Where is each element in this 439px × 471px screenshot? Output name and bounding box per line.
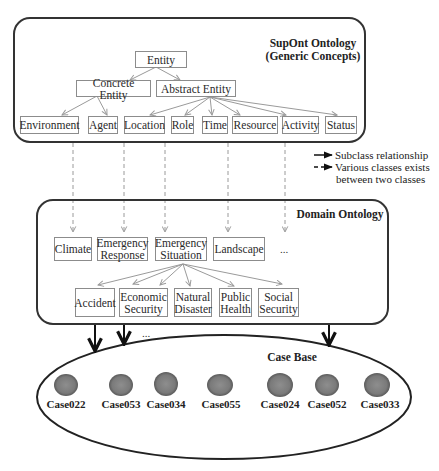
dashed-relationship-arrows: [73, 143, 285, 232]
node-emergency-situation[interactable]: Emergency Situation: [155, 237, 207, 261]
node-social-security[interactable]: Social Security: [258, 288, 299, 317]
case-node-1[interactable]: [109, 374, 133, 396]
node-concrete-entity[interactable]: Concrete Entity: [76, 80, 151, 97]
supont-title-line1: SupOnt Ontology: [263, 37, 363, 50]
case-node-3[interactable]: [207, 374, 233, 396]
casebase-arrows: [95, 325, 329, 351]
case-node-5[interactable]: [315, 374, 339, 396]
case-node-2[interactable]: [154, 372, 178, 396]
node-accident[interactable]: Accident: [75, 288, 115, 317]
casebase-more-ellipsis: ...: [142, 327, 150, 339]
case-label-2: Case034: [136, 398, 196, 410]
node-agent[interactable]: Agent: [88, 116, 118, 134]
node-location[interactable]: Location: [124, 116, 165, 134]
domain-more-ellipsis: ...: [280, 243, 288, 255]
domain-title: Domain Ontology: [295, 208, 385, 221]
node-landscape[interactable]: Landscape: [213, 237, 265, 261]
node-resource[interactable]: Resource: [232, 116, 278, 134]
domain-subclass-arrows: [98, 264, 282, 286]
case-label-3: Case055: [191, 398, 251, 410]
case-label-0: Case022: [36, 398, 96, 410]
node-status[interactable]: Status: [325, 116, 357, 134]
node-time[interactable]: Time: [202, 116, 228, 134]
node-natural-disaster[interactable]: Natural Disaster: [174, 288, 212, 317]
node-abstract-entity[interactable]: Abstract Entity: [156, 80, 236, 97]
legend: [314, 155, 332, 167]
legend-dashed-label-1: Various classes exists: [335, 161, 430, 173]
case-node-4[interactable]: [267, 373, 293, 397]
node-environment[interactable]: Environment: [20, 116, 79, 134]
casebase-ellipse: [37, 335, 411, 459]
node-climate[interactable]: Climate: [54, 237, 92, 261]
case-label-5: Case052: [297, 398, 357, 410]
node-activity[interactable]: Activity: [282, 116, 319, 134]
supont-title: SupOnt Ontology (Generic Concepts): [263, 37, 363, 63]
case-nodes: [54, 372, 390, 397]
case-label-6: Case033: [350, 398, 410, 410]
legend-solid-label: Subclass relationship: [335, 149, 428, 161]
legend-dashed-label-2: between two classes: [336, 173, 425, 185]
node-public-health[interactable]: Public Health: [219, 288, 252, 317]
node-entity[interactable]: Entity: [135, 51, 187, 68]
node-emergency-response[interactable]: Emergency Response: [97, 237, 148, 261]
casebase-title: Case Base: [262, 351, 322, 364]
case-node-0[interactable]: [54, 374, 78, 396]
node-economic-security[interactable]: Economic Security: [119, 288, 168, 317]
case-node-6[interactable]: [364, 373, 390, 397]
node-role[interactable]: Role: [171, 116, 194, 134]
supont-title-line2: (Generic Concepts): [263, 50, 363, 63]
